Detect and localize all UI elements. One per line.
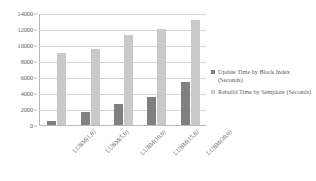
y-axis-tick-mark [34,46,37,47]
y-axis-tick-mark [34,94,37,95]
bar-group [140,14,173,125]
x-axis-labels: LUBM(1,0)LUBM(5,0)LUBM(10,0)LUBM(15,0)LU… [39,128,206,181]
bar [181,82,190,125]
legend-label: Rebuild Time by Semplore (Seconds) [218,88,311,96]
y-axis-tick-label: 10000 [18,43,33,49]
bar-group [174,14,207,125]
y-axis-tick-label: 12000 [18,27,33,33]
bar-group [40,14,73,125]
legend-item[interactable]: Rebuild Time by Semplore (Seconds) [211,88,314,96]
chart-legend: Update Time by Block Index (Seconds)Rebu… [211,68,314,100]
bar [124,35,133,125]
y-axis-tick-label: 2000 [21,107,33,113]
y-axis-tick-label: 4000 [21,91,33,97]
bar [147,97,156,125]
y-axis-tick-mark [34,110,37,111]
y-axis-tick-mark [34,62,37,63]
legend-item[interactable]: Update Time by Block Index (Seconds) [211,68,314,84]
y-axis-tick-mark [34,78,37,79]
bar [81,112,90,125]
y-axis: 14000120001000080006000400020000 [0,14,37,126]
bar-groups [40,14,206,125]
bar [157,29,166,125]
y-axis-tick-label: 8000 [21,59,33,65]
x-axis-tick-label: LUBM(20,0) [205,128,233,156]
x-axis-tick-label: LUBM(5,0) [104,128,130,154]
x-axis-tick-label: LUBM(10,0) [138,128,166,156]
bar-group [73,14,106,125]
legend-swatch-icon [211,90,215,94]
y-axis-tick-mark [34,126,37,127]
bar [191,20,200,125]
bar-group [107,14,140,125]
y-axis-tick-mark [34,30,37,31]
x-axis-tick-label: LUBM(15,0) [172,128,200,156]
bar [114,104,123,125]
x-axis-tick-label: LUBM(1,0) [70,128,96,154]
bar [47,121,56,125]
bar [57,53,66,125]
y-axis-tick-mark [34,14,37,15]
bar [91,49,100,125]
plot-area [39,14,206,126]
bar-chart: 14000120001000080006000400020000 LUBM(1,… [0,0,316,181]
legend-swatch-icon [211,70,215,74]
y-axis-tick-label: 14000 [18,11,33,17]
y-axis-tick-label: 6000 [21,75,33,81]
y-axis-tick-label: 0 [30,123,33,129]
legend-label: Update Time by Block Index (Seconds) [218,68,314,84]
